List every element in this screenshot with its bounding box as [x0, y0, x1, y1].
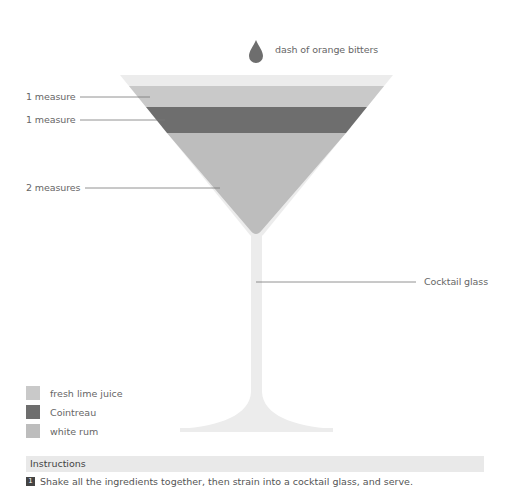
- layer-label-cointreau: 1 measure: [26, 114, 76, 125]
- instructions-header-bar: [26, 456, 484, 472]
- legend-label: Cointreau: [50, 407, 96, 418]
- legend-label: white rum: [50, 426, 98, 437]
- glass-foot: [180, 392, 333, 429]
- step-text: Shake all the ingredients together, then…: [40, 476, 413, 487]
- instructions-title: Instructions: [30, 458, 86, 469]
- instruction-step: 1 Shake all the ingredients together, th…: [26, 476, 413, 487]
- layer-cointreau: [146, 107, 367, 133]
- legend-item-rum: white rum: [26, 424, 98, 438]
- garnish-label: dash of orange bitters: [275, 44, 378, 55]
- layer-lime: [129, 86, 384, 107]
- legend-swatch: [26, 405, 40, 419]
- drop-icon: [249, 40, 263, 63]
- step-number: 1: [26, 477, 35, 486]
- layer-label-rum: 2 measures: [26, 182, 80, 193]
- layer-rum: [167, 133, 346, 234]
- legend-swatch: [26, 386, 40, 400]
- legend-label: fresh lime juice: [50, 388, 123, 399]
- glass-label: Cocktail glass: [424, 276, 488, 287]
- legend-swatch: [26, 424, 40, 438]
- legend-item-cointreau: Cointreau: [26, 405, 96, 419]
- legend-item-lime: fresh lime juice: [26, 386, 123, 400]
- layer-label-lime: 1 measure: [26, 91, 76, 102]
- glass-stem: [251, 236, 262, 396]
